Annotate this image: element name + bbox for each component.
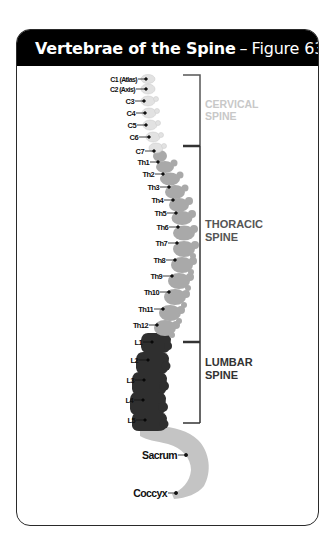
spine-diagram: CERVICAL SPINE THORACIC SPINE LUMBAR SPI… <box>0 0 334 548</box>
label-th12: Th12 <box>133 321 149 330</box>
label-coccyx: Coccyx <box>133 487 168 499</box>
label-c4: C4 <box>127 109 137 118</box>
label-c2: C2 (Axis) <box>110 86 135 94</box>
label-th2: Th2 <box>142 170 154 179</box>
label-th7: Th7 <box>155 239 167 248</box>
label-th6: Th6 <box>156 223 168 232</box>
label-sacrum: Sacrum <box>142 449 177 461</box>
lumbar-label-line2: SPINE <box>205 369 238 381</box>
label-c3: C3 <box>126 97 135 106</box>
label-c5: C5 <box>128 121 137 130</box>
thoracic-label-line2: SPINE <box>205 231 238 243</box>
lumbar-label-line1: LUMBAR <box>205 356 253 368</box>
label-l2: L2 <box>130 356 138 365</box>
cervical-label-line2: SPINE <box>205 110 237 122</box>
label-th1: Th1 <box>137 158 149 167</box>
cervical-label-line1: CERVICAL <box>205 98 259 110</box>
label-th3: Th3 <box>147 183 159 192</box>
label-l3: L3 <box>126 376 134 385</box>
label-th5: Th5 <box>154 209 166 218</box>
label-l5: L5 <box>127 416 135 425</box>
label-th11: Th11 <box>138 305 153 314</box>
label-th10: Th10 <box>144 288 160 297</box>
label-th9: Th9 <box>150 272 162 281</box>
label-th8: Th8 <box>153 256 165 265</box>
label-c7: C7 <box>136 147 145 156</box>
label-l1: L1 <box>134 338 142 347</box>
label-c1: C1 (Atlas) <box>110 76 137 84</box>
label-th4: Th4 <box>151 196 164 205</box>
label-c6: C6 <box>130 133 139 142</box>
thoracic-label-line1: THORACIC <box>205 218 263 230</box>
lumbar-vertebrae <box>130 333 172 431</box>
